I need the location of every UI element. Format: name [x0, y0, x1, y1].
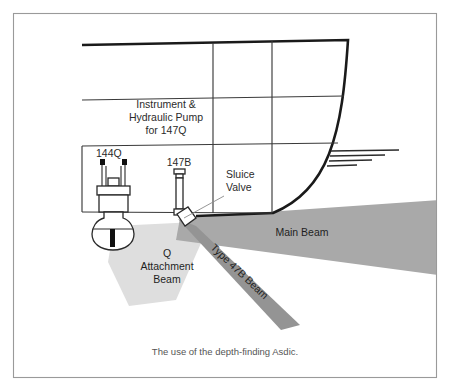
- 144q-housing-body: [99, 195, 128, 212]
- label-sluice-valve-line2: Valve: [226, 181, 252, 193]
- asdic-diagram-figure: Instrument & Hydraulic Pump for 147Q 144…: [0, 0, 450, 391]
- 147b-hex-top: [174, 169, 185, 174]
- figure-border: [14, 14, 437, 378]
- 144q-frame-cap-left: [100, 159, 105, 165]
- waterline-mark-2: [330, 155, 385, 156]
- 144q-housing-collar: [97, 186, 130, 195]
- waterline-mark-1: [331, 150, 399, 151]
- label-code-147b: 147B: [167, 156, 192, 168]
- equipment-144q: [92, 159, 134, 250]
- label-q-beam-line1: Q: [163, 247, 171, 259]
- label-main-beam: Main Beam: [275, 226, 328, 238]
- label-q-beam-line2: Attachment: [140, 260, 193, 272]
- label-q-beam-line3: Beam: [153, 273, 181, 285]
- 144q-inner-box: [108, 178, 119, 186]
- deck-line-lower: [82, 143, 338, 146]
- figure-caption: The use of the depth-finding Asdic.: [152, 346, 298, 357]
- waterline-mark-3: [329, 160, 372, 161]
- label-instrument-line1: Instrument &: [136, 98, 196, 110]
- label-instrument-line3: for 147Q: [146, 124, 187, 136]
- 144q-frame-cap-right: [122, 159, 127, 165]
- diagram-canvas: Instrument & Hydraulic Pump for 147Q 144…: [0, 0, 450, 391]
- label-instrument-line2: Hydraulic Pump: [129, 111, 203, 123]
- 144q-transducer-bar: [110, 229, 115, 247]
- 147b-shaft: [176, 178, 183, 209]
- label-sluice-valve-line1: Sluice: [226, 168, 255, 180]
- label-code-144q: 144Q: [96, 147, 122, 159]
- waterline-mark-4: [327, 165, 357, 166]
